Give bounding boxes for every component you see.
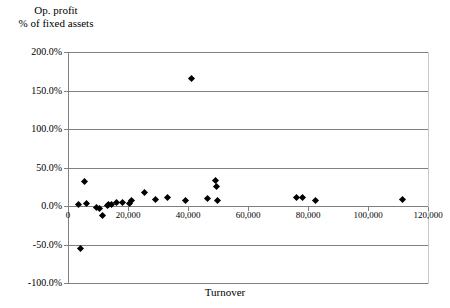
y-axis-tick-label: 50.0% [0,163,62,173]
x-axis-tick-label: 40,000 [158,210,218,220]
data-point [151,196,158,203]
x-axis-tick-label: 60,000 [218,210,278,220]
y-axis-tick [64,283,69,284]
x-axis-tick-label: 120,000 [398,210,450,220]
gridline [68,91,428,92]
data-point [81,178,88,185]
y-axis-tick-label: 100.0% [0,124,62,134]
y-axis-tick [64,91,69,92]
data-point [213,183,220,190]
x-axis-tick-label: 0 [38,210,98,220]
y-axis-tick [64,245,69,246]
scatter-chart: Op. profit % of fixed assets 200.0%150.0… [0,0,450,308]
gridline [68,245,428,246]
x-axis-tick-label: 80,000 [278,210,338,220]
gridline [68,283,428,284]
y-axis-tick [64,129,69,130]
data-point [312,197,319,204]
y-axis-title: Op. profit % of fixed assets [0,4,112,30]
y-axis-tick-label: 200.0% [0,47,62,57]
x-axis-tick-label: 20,000 [98,210,158,220]
gridline [68,168,428,169]
data-point [141,189,148,196]
gridline [68,52,428,53]
data-point [298,194,305,201]
gridline [68,129,428,130]
data-point [187,75,194,82]
data-point [399,196,406,203]
y-axis-tick [64,168,69,169]
x-axis-title: Turnover [0,286,450,298]
y-axis-tick-label: -50.0% [0,240,62,250]
data-point [163,194,170,201]
x-axis-tick-label: 100,000 [338,210,398,220]
plot-right-border [428,52,429,284]
data-point [204,195,211,202]
y-axis-tick [64,206,69,207]
data-point [214,197,221,204]
y-axis-tick-label: 150.0% [0,86,62,96]
y-axis-tick [64,52,69,53]
data-point [181,197,188,204]
